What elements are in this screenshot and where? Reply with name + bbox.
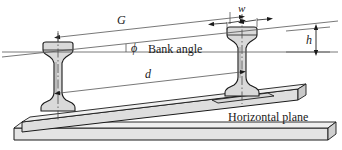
horizontal-plane-label: Horizontal plane xyxy=(228,110,308,125)
gauge-dimension-line xyxy=(58,12,240,42)
rail-head-width-label: w xyxy=(238,2,245,14)
bank-angle-symbol: ϕ xyxy=(131,41,137,56)
gauge-label: G xyxy=(117,13,126,28)
diagram-canvas xyxy=(0,0,342,150)
left-rail-profile xyxy=(41,33,75,120)
right-rail-profile xyxy=(225,14,259,104)
bank-angle-diagram: G d w h ϕ Bank angle Horizontal plane xyxy=(0,0,342,150)
center-distance-label: d xyxy=(145,67,151,82)
bank-angle-label: Bank angle xyxy=(148,42,202,57)
cant-height-label: h xyxy=(306,33,312,48)
